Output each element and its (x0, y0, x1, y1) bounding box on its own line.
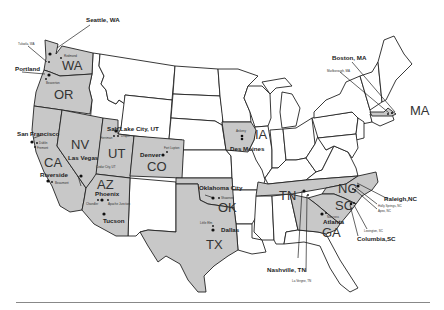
label-wa: WA (62, 58, 83, 73)
dot-las-vegas (79, 174, 82, 177)
label-tn: TN (279, 188, 296, 203)
label-holly-springs: Holly Springs, NC (378, 204, 403, 208)
dot-atlanta (320, 212, 323, 215)
label-phoenix: Phoenix (95, 190, 120, 197)
label-dublin: Dublin (39, 141, 48, 145)
label-marlborough: Marlborough, MA (327, 69, 350, 73)
dot-nashville (302, 189, 305, 192)
dot-seattle (48, 52, 51, 55)
label-nv: NV (71, 137, 89, 152)
label-co: CO (147, 159, 167, 174)
dot-raleigh (356, 184, 359, 187)
dot-shawnee (218, 197, 220, 199)
label-ut: UT (108, 146, 125, 161)
label-ca: CA (44, 155, 62, 170)
dot-fremont (34, 146, 36, 148)
label-nashville: Nashville, TN (267, 266, 306, 273)
state-nm (128, 178, 176, 236)
label-ga: GA (322, 225, 341, 240)
dot-des-moines (241, 138, 244, 141)
label-ok: OK (218, 200, 237, 215)
dot-chandler (97, 199, 99, 201)
dot-boston (391, 112, 393, 114)
label-chandler: Chandler (86, 202, 98, 206)
label-beaverton: Beaverton (46, 81, 60, 85)
state-me (378, 36, 412, 102)
dot-lavergne (307, 194, 309, 196)
label-redmond: Redmond (64, 54, 77, 58)
label-portland: Portland (15, 65, 40, 72)
state-nd (173, 66, 220, 96)
dot-ankeny (241, 135, 244, 138)
label-apex: Apex, NC (378, 209, 392, 213)
label-boston: Boston, MA (332, 54, 367, 61)
label-cedar-city: Cedar City, UT (96, 165, 116, 169)
us-map: WA OR CA NV UT AZ CO OK TX IA TN NC SC G… (0, 0, 444, 310)
bottom-divider (16, 302, 430, 303)
dot-denver (161, 153, 164, 156)
dot-redmond (60, 57, 62, 59)
label-norcross: Norcross (327, 215, 340, 219)
dot-holly-springs (352, 188, 354, 190)
dot-herriman (113, 135, 115, 137)
label-tukwila: Tukwila, WA (18, 42, 34, 46)
label-oklahoma-city: Oklahoma City (199, 184, 243, 191)
label-des-moines: Des Moines (230, 145, 265, 152)
dot-san-francisco (30, 140, 33, 143)
dot-riverside (46, 179, 49, 182)
label-atlanta: Atlanta (323, 218, 345, 225)
label-nc: NC (338, 181, 357, 196)
dot-marlborough (387, 113, 389, 115)
state-ks (181, 150, 232, 178)
label-denver: Denver (140, 151, 162, 158)
label-beaumont: Beaumont (55, 181, 69, 185)
label-draper: Draper (121, 134, 130, 138)
dot-fort-lupton (166, 151, 168, 153)
label-las-vegas: Las Vegas (68, 154, 99, 161)
label-fort-lupton: Fort Lupton (164, 146, 180, 150)
dot-tucson (102, 212, 105, 215)
label-san-francisco: San Francisco (17, 130, 60, 137)
dot-phoenix (100, 198, 103, 201)
label-raleigh: Raleigh,NC (384, 195, 418, 202)
label-little-elm: Little Elm (200, 221, 213, 225)
dot-apex (354, 189, 356, 191)
dot-dallas (211, 228, 214, 231)
label-ia: IA (255, 127, 268, 142)
label-tucson: Tucson (103, 217, 125, 224)
state-ms (254, 196, 274, 240)
dot-beaumont (51, 181, 53, 183)
dot-apache-junction (107, 199, 109, 201)
label-or: OR (54, 87, 74, 102)
label-lexington: Lexington, SC (364, 229, 384, 233)
dot-draper (117, 135, 119, 137)
label-fremont: Fremont (37, 146, 48, 150)
state-nj (356, 118, 364, 140)
label-tx: TX (206, 237, 223, 252)
label-ankeny: Ankeny (236, 129, 247, 133)
label-herriman: Herriman (100, 136, 113, 140)
label-columbia: Columbia,SC (357, 235, 396, 242)
dot-lexington (353, 202, 355, 204)
dot-columbia (350, 203, 353, 206)
dot-tukwila (48, 61, 50, 63)
dot-norcross (325, 212, 327, 214)
label-apache-junction: Apache Junction (108, 202, 131, 206)
label-salt-lake-city: Salt Lake City, UT (107, 125, 159, 132)
dot-portland (47, 73, 50, 76)
label-seattle: Seattle, WA (86, 16, 120, 23)
label-riverside: Riverside (40, 171, 68, 178)
label-dallas: Dallas (221, 226, 240, 233)
dot-little-elm (212, 225, 214, 227)
label-shawnee: Shawnee (221, 196, 234, 200)
dot-oklahoma-city (211, 196, 214, 199)
label-lavergne: La Vergne, TN (292, 279, 311, 283)
label-ma: MA (410, 103, 430, 118)
dot-dublin (36, 142, 38, 144)
dot-beaverton (45, 78, 47, 80)
